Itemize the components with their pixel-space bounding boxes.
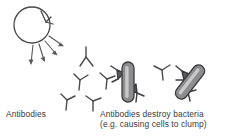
- cell-circle: [14, 7, 50, 43]
- arrow-1: [29, 45, 34, 65]
- antibody-icon-2: [74, 74, 88, 90]
- bacterium-right-group: [173, 63, 207, 102]
- bacterium-left-highlight: [125, 66, 128, 98]
- caption-line-2: (e.g. causing cells to clump): [100, 120, 207, 130]
- arrow-3: [45, 41, 58, 56]
- antibody-icon-6: [154, 65, 170, 80]
- label-antibodies: Antibodies: [6, 110, 46, 120]
- cell-group: [14, 7, 53, 43]
- caption-antibodies-destroy-bacteria: Antibodies destroy bacteria (e.g. causin…: [100, 110, 207, 129]
- free-antibodies: [61, 47, 170, 111]
- antibody-icon-5: [86, 96, 101, 111]
- bacterium-left-group: [111, 62, 144, 102]
- antibody-icon-4: [61, 94, 75, 110]
- antibody-icon-1: [80, 47, 93, 66]
- arrow-4: [49, 36, 64, 46]
- bacterium-left: [122, 62, 134, 102]
- secretion-arrows: [29, 36, 64, 65]
- arrow-2: [39, 44, 45, 62]
- cell-bound-antibody-icon: [41, 11, 53, 24]
